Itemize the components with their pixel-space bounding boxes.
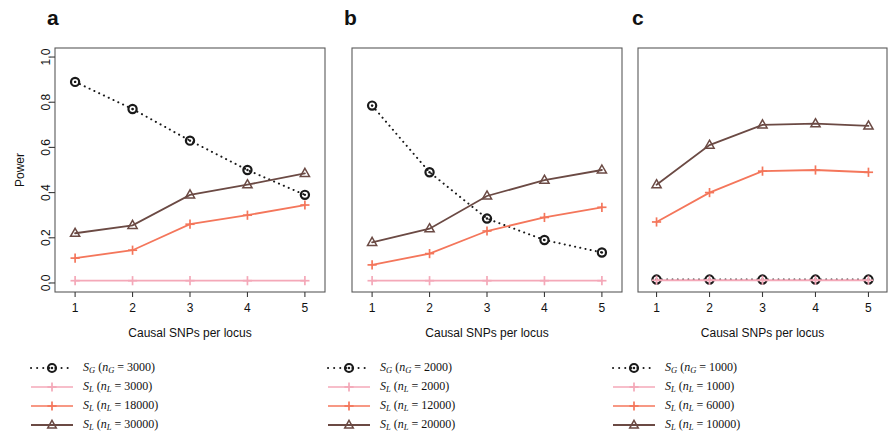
- legend-entry: SL (nL = 1000): [612, 377, 740, 396]
- svg-text:0.8: 0.8: [39, 94, 53, 111]
- svg-text:5: 5: [865, 301, 872, 315]
- svg-text:1: 1: [369, 301, 376, 315]
- svg-text:1: 1: [653, 301, 660, 315]
- legend-symbol-cross-coral-icon: [612, 399, 656, 413]
- legend-symbol-triangle-brown-icon: [612, 418, 656, 432]
- legend-entry: SG (nG = 3000): [30, 358, 158, 377]
- legend-label: SG (nG = 2000): [380, 360, 452, 375]
- legend-symbol-triangle-brown-icon: [30, 418, 74, 432]
- svg-text:3: 3: [759, 301, 766, 315]
- svg-text:2: 2: [426, 301, 433, 315]
- legend-symbol-triangle-brown-icon: [327, 418, 371, 432]
- svg-text:0.0: 0.0: [39, 274, 53, 291]
- panel-c: c 12345Causal SNPs per locus SG (nG = 10…: [587, 0, 892, 447]
- svg-text:4: 4: [812, 301, 819, 315]
- panel-a-legend: SG (nG = 3000)SL (nL = 3000)SL (nL = 180…: [30, 358, 158, 434]
- panel-c-plot: 12345Causal SNPs per locus: [587, 0, 892, 345]
- legend-entry: SL (nL = 12000): [327, 396, 455, 415]
- svg-text:0.2: 0.2: [39, 229, 53, 246]
- svg-text:0.6: 0.6: [39, 139, 53, 156]
- legend-label: SL (nL = 3000): [83, 379, 152, 394]
- svg-text:Power: Power: [13, 153, 27, 187]
- legend-label: SL (nL = 1000): [665, 379, 734, 394]
- svg-text:1.0: 1.0: [39, 48, 53, 65]
- legend-label: SL (nL = 2000): [380, 379, 449, 394]
- legend-label: SL (nL = 12000): [380, 398, 455, 413]
- legend-symbol-circle-dotted-icon: [612, 361, 656, 375]
- legend-symbol-cross-pale-icon: [612, 380, 656, 394]
- figure-root: a 0.00.20.40.60.81.0Power12345Causal SNP…: [0, 0, 892, 447]
- panel-c-legend: SG (nG = 1000)SL (nL = 1000)SL (nL = 600…: [612, 358, 740, 434]
- legend-symbol-cross-pale-icon: [327, 380, 371, 394]
- legend-entry: SL (nL = 6000): [612, 396, 740, 415]
- legend-entry: SL (nL = 3000): [30, 377, 158, 396]
- legend-entry: SL (nL = 10000): [612, 415, 740, 434]
- legend-label: SL (nL = 6000): [665, 398, 734, 413]
- legend-label: SL (nL = 18000): [83, 398, 158, 413]
- panel-b: b 12345Causal SNPs per locus SG (nG = 20…: [300, 0, 630, 447]
- legend-symbol-circle-dotted-icon: [327, 361, 371, 375]
- legend-symbol-cross-coral-icon: [30, 399, 74, 413]
- svg-text:0.4: 0.4: [39, 184, 53, 201]
- legend-symbol-cross-pale-icon: [30, 380, 74, 394]
- legend-label: SL (nL = 30000): [83, 417, 158, 432]
- svg-text:3: 3: [187, 301, 194, 315]
- legend-entry: SL (nL = 18000): [30, 396, 158, 415]
- legend-label: SG (nG = 3000): [83, 360, 155, 375]
- legend-symbol-cross-coral-icon: [327, 399, 371, 413]
- legend-entry: SG (nG = 2000): [327, 358, 455, 377]
- legend-entry: SL (nL = 30000): [30, 415, 158, 434]
- svg-text:Causal SNPs per locus: Causal SNPs per locus: [425, 326, 548, 340]
- svg-text:2: 2: [706, 301, 713, 315]
- svg-text:Causal SNPs per locus: Causal SNPs per locus: [128, 326, 251, 340]
- legend-entry: SG (nG = 1000): [612, 358, 740, 377]
- legend-label: SG (nG = 1000): [665, 360, 737, 375]
- legend-entry: SL (nL = 20000): [327, 415, 455, 434]
- svg-text:1: 1: [72, 301, 79, 315]
- svg-text:4: 4: [541, 301, 548, 315]
- panel-a: a 0.00.20.40.60.81.0Power12345Causal SNP…: [0, 0, 330, 447]
- legend-entry: SL (nL = 2000): [327, 377, 455, 396]
- svg-text:4: 4: [244, 301, 251, 315]
- panel-b-legend: SG (nG = 2000)SL (nL = 2000)SL (nL = 120…: [327, 358, 455, 434]
- svg-text:3: 3: [484, 301, 491, 315]
- svg-text:Causal SNPs per locus: Causal SNPs per locus: [701, 326, 824, 340]
- panel-a-plot: 0.00.20.40.60.81.0Power12345Causal SNPs …: [0, 0, 340, 345]
- legend-label: SL (nL = 20000): [380, 417, 455, 432]
- legend-label: SL (nL = 10000): [665, 417, 740, 432]
- svg-text:2: 2: [129, 301, 136, 315]
- legend-symbol-circle-dotted-icon: [30, 361, 74, 375]
